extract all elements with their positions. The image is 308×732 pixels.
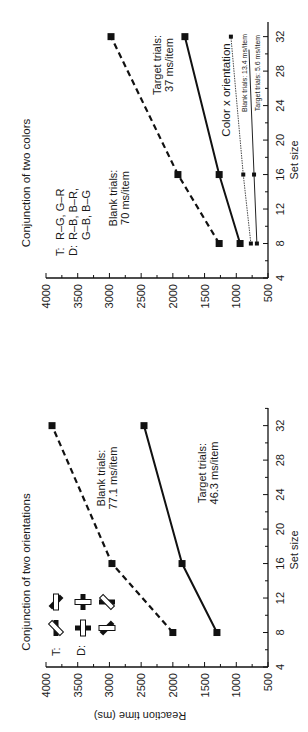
target-trials-label: Target trials: <box>151 35 163 95</box>
set-size-tick-label: 28 <box>274 454 286 466</box>
set-size-tick-label: 20 <box>274 523 286 535</box>
panel-title: Conjunction of two colors <box>20 119 32 248</box>
data-point-square <box>229 35 233 39</box>
set-size-tick-label: 4 <box>274 664 286 670</box>
bar-glyph-icon <box>49 594 64 610</box>
set-size-tick-label: 12 <box>274 203 286 215</box>
rt-tick-label: 2000 <box>167 284 179 308</box>
data-point-square <box>252 173 256 177</box>
x-axis-label: Set size <box>288 530 300 569</box>
set-size-tick-label: 24 <box>274 99 286 111</box>
data-point-square <box>108 560 115 567</box>
data-point-square <box>49 422 56 429</box>
rt-tick-label: 1500 <box>199 673 211 697</box>
rt-tick-label: 1000 <box>230 673 242 697</box>
rt-tick-label: 4000 <box>40 284 52 308</box>
target-trials-rate: 37 ms/item <box>163 38 175 92</box>
legend-distractor-line2: G–B, B–G <box>80 190 92 240</box>
set-size-tick-label: 12 <box>274 592 286 604</box>
set-size-tick-label: 16 <box>274 168 286 180</box>
cxo-target-label: Target trials: 5.6 ms/item <box>254 35 262 111</box>
rt-tick-label: 1500 <box>199 284 211 308</box>
data-point-square <box>169 629 176 636</box>
set-size-tick-label: 24 <box>274 488 286 500</box>
blank-trials-rate: 77.1 ms/item <box>107 447 119 510</box>
bar-glyph-icon <box>75 620 91 636</box>
rt-tick-label: 3000 <box>103 673 115 697</box>
rt-tick-label: 500 <box>262 284 274 302</box>
data-point-square <box>108 33 115 40</box>
data-point-square <box>213 629 220 636</box>
rt-tick-label: 2500 <box>135 673 147 697</box>
bar-glyph-icon <box>75 594 91 610</box>
legend-distractor-prefix: D: <box>75 645 87 656</box>
rt-tick-label: 2000 <box>167 673 179 697</box>
data-point-square <box>216 240 223 247</box>
data-point-square <box>255 242 259 246</box>
data-point-square <box>181 33 188 40</box>
target-trials-label: Target trials: <box>196 443 208 503</box>
data-point-square <box>249 242 253 246</box>
bar-glyph-icon <box>99 595 115 610</box>
rt-tick-label: 4000 <box>40 673 52 697</box>
set-size-tick-label: 28 <box>274 65 286 77</box>
rotated-figure: 4000350030002500200015001000500481216202… <box>0 0 308 732</box>
legend-target-text: R–G, G–R <box>54 189 66 240</box>
blank-trials-rate: 70 ms/item <box>119 171 131 225</box>
bar-glyph-icon <box>49 620 64 636</box>
target-trials-rate: 46.3 ms/item <box>208 442 220 505</box>
set-size-tick-label: 8 <box>274 629 286 635</box>
rt-tick-label: 3500 <box>72 673 84 697</box>
rt-tick-label: 1000 <box>230 284 242 308</box>
data-point-square <box>216 171 223 178</box>
rt-tick-label: 2500 <box>135 284 147 308</box>
rt-tick-label: 3500 <box>72 284 84 308</box>
blank-trials-label: Blank trials: <box>107 170 119 227</box>
rt-tick-label: 500 <box>262 673 274 691</box>
data-point-square <box>140 422 147 429</box>
legend-distractor-line1: R–B, B–R, <box>67 188 79 240</box>
set-size-tick-label: 32 <box>274 31 286 43</box>
data-point-square <box>174 171 181 178</box>
panel-title: Conjunction of two orientations <box>20 493 32 651</box>
cxo-title: Color x orientation <box>220 43 232 136</box>
data-point-square <box>237 240 244 247</box>
bar-glyph-icon <box>99 621 115 636</box>
rt-tick-label: 3000 <box>103 284 115 308</box>
cxo-blank-label: Blank trials: 13.4 ms/item <box>241 34 248 112</box>
set-size-tick-label: 4 <box>274 275 286 281</box>
legend-distractor-prefix: D: <box>67 245 79 256</box>
set-size-tick-label: 20 <box>274 134 286 146</box>
blank-trials-label: Blank trials: <box>95 450 107 507</box>
legend-target-prefix: T: <box>54 247 66 256</box>
data-point-square <box>179 560 186 567</box>
chart-canvas: 4000350030002500200015001000500481216202… <box>0 0 308 732</box>
y-axis-label: Reaction time (ms) <box>94 710 186 722</box>
legend-target-prefix: T: <box>50 647 62 656</box>
set-size-tick-label: 16 <box>274 557 286 569</box>
set-size-tick-label: 32 <box>274 420 286 432</box>
x-axis-label: Set size <box>288 140 300 179</box>
data-point-square <box>241 173 245 177</box>
set-size-tick-label: 8 <box>274 240 286 246</box>
